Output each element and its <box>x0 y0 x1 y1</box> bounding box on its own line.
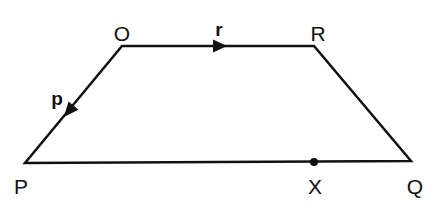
vector-r-arrowhead-icon <box>213 40 227 53</box>
point-x-dot <box>310 158 318 166</box>
vertex-label-r: R <box>310 23 325 44</box>
vertex-label-q: Q <box>407 176 423 197</box>
vertex-label-x: X <box>308 176 322 197</box>
vertex-label-p: P <box>14 176 28 197</box>
trapezium-outline <box>25 46 411 163</box>
vector-label-r: r <box>215 20 222 39</box>
vertex-label-o: O <box>114 23 130 44</box>
vector-label-p: p <box>51 89 63 108</box>
